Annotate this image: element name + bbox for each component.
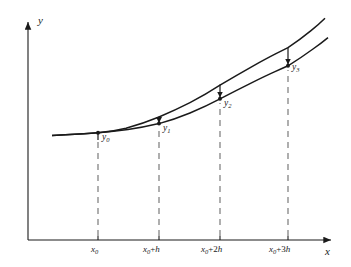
data-point-markers: [96, 64, 290, 135]
dashed-ordinate-lines: [98, 70, 288, 236]
point-marker-y2: [218, 97, 222, 101]
euler-method-error-diagram: y x x0 x0+h x0+2h x0+3h y0 y1 y2 y3: [0, 0, 351, 267]
point-marker-y1: [157, 122, 161, 126]
diagram-canvas: [0, 0, 351, 267]
numerical-solution-curve: [52, 38, 328, 136]
point-marker-y3: [286, 64, 290, 68]
point-label-y0: y0: [102, 133, 109, 143]
tick-label-x0-plus-2h: x0+2h: [201, 245, 222, 254]
point-label-y2: y2: [224, 99, 231, 109]
point-label-y3: y3: [292, 63, 299, 73]
axis-group: [28, 22, 331, 240]
axis-ticks: [98, 236, 288, 240]
true-solution-curve: [52, 18, 325, 135]
error-gap-arrows: [159, 48, 288, 124]
point-label-y1: y1: [163, 124, 170, 134]
tick-label-x0-plus-3h: x0+3h: [269, 245, 290, 254]
tick-label-x0-plus-h: x0+h: [143, 245, 160, 254]
solution-curves: [52, 18, 328, 135]
x-axis-label: x: [325, 246, 330, 257]
tick-label-x0: x0: [91, 245, 98, 254]
y-axis-label: y: [38, 15, 43, 26]
